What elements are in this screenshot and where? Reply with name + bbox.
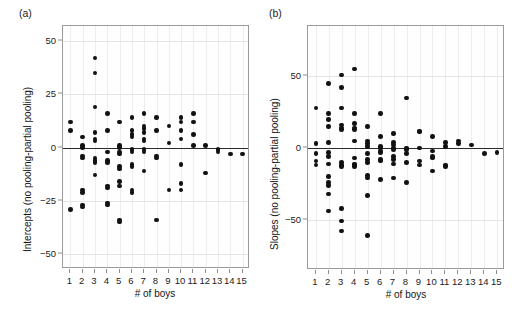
- x-axis-tick-mark: [119, 269, 120, 273]
- data-point: [326, 174, 331, 179]
- x-axis-tick-label: 15: [236, 275, 247, 286]
- data-point: [326, 192, 331, 197]
- data-point: [391, 131, 396, 136]
- data-point: [142, 139, 147, 144]
- data-point: [240, 152, 245, 157]
- x-axis-tick-mark: [205, 269, 206, 273]
- x-axis-tick-mark: [106, 269, 107, 273]
- data-point: [326, 183, 331, 188]
- x-axis-tick-label: 14: [478, 276, 489, 287]
- data-point: [339, 229, 344, 234]
- x-axis-tick-mark: [82, 269, 83, 273]
- data-point: [352, 164, 357, 169]
- x-axis-tick-label: 4: [351, 276, 356, 287]
- panel-a-label: (a): [19, 7, 32, 19]
- x-axis-tick-mark: [94, 269, 95, 273]
- y-axis-tick-mark: [58, 199, 62, 200]
- data-point: [352, 111, 357, 116]
- data-point: [339, 85, 344, 90]
- data-point: [326, 117, 331, 122]
- data-point: [93, 173, 98, 178]
- x-axis-tick-label: 5: [116, 275, 121, 286]
- x-axis-tick-mark: [168, 269, 169, 273]
- gridline-horizontal: [308, 76, 503, 77]
- y-axis-tick-label: 50: [275, 70, 301, 81]
- data-point: [117, 167, 122, 172]
- gridline-vertical: [497, 26, 498, 268]
- data-point: [93, 139, 98, 144]
- data-point: [117, 184, 122, 189]
- data-point: [93, 130, 98, 135]
- x-axis-tick-mark: [367, 270, 368, 274]
- x-axis-tick-label: 1: [67, 275, 72, 286]
- data-point: [404, 151, 409, 156]
- data-point: [130, 190, 135, 195]
- x-axis-tick-mark: [354, 270, 355, 274]
- data-point: [130, 164, 135, 169]
- data-point: [417, 130, 422, 135]
- data-point: [154, 128, 159, 133]
- x-axis-tick-mark: [242, 269, 243, 273]
- x-axis-tick-mark: [393, 270, 394, 274]
- data-point: [326, 154, 331, 159]
- data-point: [314, 106, 319, 111]
- x-axis-tick-label: 10: [426, 276, 437, 287]
- x-axis-tick-mark: [217, 269, 218, 273]
- x-axis-tick-label: 11: [187, 275, 197, 286]
- x-axis-tick-label: 10: [175, 275, 186, 286]
- data-point: [80, 190, 85, 195]
- data-point: [228, 152, 233, 157]
- data-point: [365, 193, 370, 198]
- data-point: [68, 120, 73, 125]
- data-point: [191, 132, 196, 137]
- x-axis-tick-label: 15: [491, 276, 502, 287]
- y-axis-tick-mark: [303, 75, 307, 76]
- gridline-horizontal: [308, 220, 503, 221]
- data-point: [179, 137, 184, 142]
- data-point: [326, 140, 331, 145]
- x-axis-tick-mark: [229, 269, 230, 273]
- x-axis-tick-label: 7: [141, 275, 146, 286]
- data-point: [339, 219, 344, 224]
- data-point: [417, 163, 422, 168]
- gridline-vertical: [230, 26, 231, 267]
- data-point: [365, 144, 370, 149]
- data-point: [105, 160, 110, 165]
- data-point: [495, 150, 500, 155]
- data-point: [117, 152, 122, 157]
- x-axis-tick-mark: [406, 270, 407, 274]
- data-point: [130, 135, 135, 140]
- y-axis-tick-mark: [303, 218, 307, 219]
- panel-a-plot-area: [62, 25, 249, 268]
- y-axis-tick-mark: [58, 93, 62, 94]
- data-point: [391, 162, 396, 167]
- data-point: [93, 56, 98, 61]
- data-point: [216, 147, 221, 152]
- data-point: [339, 127, 344, 132]
- data-point: [154, 115, 159, 120]
- x-axis-tick-label: 5: [364, 276, 369, 287]
- data-point: [339, 73, 344, 78]
- x-axis-tick-label: 9: [165, 275, 170, 286]
- x-axis-tick-mark: [341, 270, 342, 274]
- data-point: [179, 120, 184, 125]
- x-axis-tick-label: 12: [452, 276, 463, 287]
- x-axis-tick-label: 2: [325, 276, 330, 287]
- data-point: [154, 218, 159, 223]
- data-point: [105, 150, 110, 155]
- data-point: [179, 181, 184, 186]
- gridline-horizontal: [63, 94, 248, 95]
- panel-b: (b) 500−50123456789101112131415 Slopes (…: [257, 0, 514, 315]
- x-axis-tick-label: 11: [439, 276, 449, 287]
- data-point: [404, 180, 409, 185]
- x-axis-tick-label: 13: [465, 276, 476, 287]
- gridline-vertical: [95, 26, 96, 267]
- gridline-horizontal: [63, 254, 248, 255]
- data-point: [430, 134, 435, 139]
- panel-b-y-axis-title: Slopes (no pooling-partial pooling): [269, 98, 280, 250]
- x-axis-tick-label: 3: [338, 276, 343, 287]
- x-axis-tick-mark: [156, 269, 157, 273]
- x-axis-tick-mark: [483, 270, 484, 274]
- data-point: [443, 144, 448, 149]
- data-point: [352, 156, 357, 161]
